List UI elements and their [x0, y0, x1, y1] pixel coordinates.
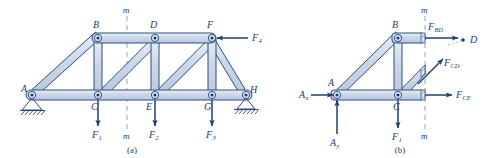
joint-label-D: D [149, 19, 158, 30]
joint-label-F: F [206, 19, 214, 30]
member-FG [208, 38, 216, 95]
member-BC-b [394, 38, 402, 95]
joint-dot-G [210, 93, 213, 96]
joint-dot-A [30, 93, 33, 96]
section-label-m-bottom-a: m [123, 131, 130, 141]
joint-dot-F [210, 36, 213, 39]
joint-label-B: B [93, 19, 99, 30]
joint-dot-D [153, 36, 156, 39]
joint-label-H: H [249, 84, 258, 95]
member-DE [151, 38, 159, 95]
panel-caption-a: (a) [127, 145, 137, 155]
joint-label-C: C [91, 101, 98, 112]
section-label-m-bottom-b: m [421, 131, 428, 141]
joint-dot-C-b [396, 93, 399, 96]
joint-dot-B [96, 36, 99, 39]
joint-label-A-b: A [327, 77, 335, 88]
joint-dot-B-b [396, 36, 399, 39]
member-AH-bottomchord [26, 90, 252, 100]
cut-face-bd [421, 33, 425, 43]
panel-caption-b: (b) [395, 145, 406, 155]
joint-label-E: E [145, 101, 152, 112]
section-label-m-top-b: m [421, 5, 428, 15]
joint-dot-E [153, 93, 156, 96]
joint-dot-C [96, 93, 99, 96]
members-bottom-chord-a [26, 90, 252, 100]
truss-figure: A B C D E F G H F1 F2 F3 F4 m m [0, 0, 489, 158]
section-label-m-top-a: m [123, 5, 130, 15]
cut-face-ce [421, 90, 425, 100]
member-BC [94, 38, 102, 95]
joint-dot-D-b [461, 38, 465, 42]
member-CE-cut-stub [331, 90, 425, 100]
joint-label-D-b: D [469, 34, 478, 45]
figure-root: A B C D E F G H F1 F2 F3 F4 m m [0, 0, 489, 158]
joint-label-B-b: B [392, 19, 398, 30]
joint-dot-A-b [335, 93, 338, 96]
joint-dot-H [244, 93, 247, 96]
joint-label-G: G [204, 101, 211, 112]
joint-label-A: A [20, 83, 28, 94]
joint-label-C-b: C [393, 101, 400, 112]
